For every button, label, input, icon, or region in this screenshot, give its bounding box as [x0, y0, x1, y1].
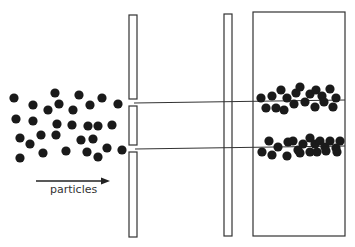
band-particle	[273, 142, 282, 151]
particle	[93, 121, 102, 130]
particle	[74, 90, 83, 99]
particle	[88, 134, 97, 143]
band-particle	[279, 105, 288, 114]
band-particle	[300, 97, 309, 106]
barrier-segment	[129, 106, 137, 145]
particle	[43, 105, 52, 114]
band-particle	[276, 85, 285, 94]
particle	[36, 130, 45, 139]
band-particle	[310, 102, 319, 111]
screen-frame	[253, 12, 345, 236]
second-barrier	[224, 14, 232, 236]
particle	[97, 93, 106, 102]
band-particle	[267, 150, 276, 159]
particle	[11, 114, 20, 123]
band-particle	[289, 99, 298, 108]
particle	[113, 99, 122, 108]
band-particle	[282, 93, 291, 102]
particle	[61, 146, 70, 155]
beam-line	[134, 100, 345, 103]
barrier-segment	[129, 152, 137, 237]
particle	[38, 148, 47, 157]
particle	[85, 100, 94, 109]
particles-label: particles	[50, 183, 97, 196]
particle	[54, 99, 63, 108]
interference-bands	[256, 82, 344, 160]
band-particle	[257, 147, 266, 156]
particle	[93, 152, 102, 161]
particle	[51, 130, 60, 139]
source-particles	[9, 88, 126, 162]
particle	[50, 88, 59, 97]
band-particle	[264, 136, 273, 145]
slit-barrier	[129, 15, 137, 237]
particle	[76, 135, 85, 144]
band-particle	[325, 84, 334, 93]
band-particle	[282, 151, 291, 160]
particle	[68, 105, 77, 114]
particle	[25, 139, 34, 148]
band-particle	[295, 82, 304, 91]
particle	[28, 116, 37, 125]
particle	[9, 93, 18, 102]
band-particle	[295, 148, 304, 157]
double-slit-diagram	[0, 0, 355, 247]
band-particle	[335, 136, 344, 145]
particle	[67, 120, 76, 129]
band-particle	[312, 147, 321, 156]
band-particle	[256, 93, 265, 102]
particle	[15, 133, 24, 142]
band-particle	[319, 97, 328, 106]
band-particle	[267, 91, 276, 100]
band-particle	[325, 136, 334, 145]
particle	[28, 100, 37, 109]
band-particle	[271, 103, 280, 112]
detection-screen	[253, 12, 345, 236]
barrier-plate	[224, 14, 232, 236]
particle	[107, 120, 116, 129]
barrier-segment	[129, 15, 137, 99]
particle	[15, 153, 24, 162]
band-particle	[331, 93, 340, 102]
band-particle	[321, 146, 330, 155]
band-particle	[332, 147, 341, 156]
band-particle	[298, 139, 307, 148]
band-particle	[288, 136, 297, 145]
band-particle	[261, 103, 270, 112]
particle	[117, 145, 126, 154]
arrow-head	[101, 178, 110, 185]
particle	[102, 143, 111, 152]
particle	[82, 147, 91, 156]
particle	[83, 121, 92, 130]
band-particle	[328, 102, 337, 111]
particle	[52, 119, 61, 128]
